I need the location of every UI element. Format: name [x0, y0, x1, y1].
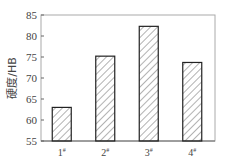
x-category-label: 4#: [188, 147, 196, 158]
y-tick-label: 60: [26, 114, 38, 126]
y-axis-label: 硬度/HB: [5, 57, 19, 99]
y-tick-label: 55: [26, 135, 38, 147]
x-axis: 1#2#3#4#: [58, 147, 197, 158]
bars: [52, 26, 202, 141]
bar-1: [52, 107, 71, 141]
bar-3: [139, 26, 158, 141]
bar-4: [183, 62, 202, 141]
y-tick-label: 80: [26, 30, 38, 42]
y-tick-label: 70: [26, 72, 38, 84]
bar-chart: 55606570758085 1#2#3#4# 硬度/HB: [0, 0, 227, 164]
y-tick-label: 85: [26, 9, 38, 21]
bar-2: [96, 56, 115, 141]
x-category-label: 3#: [145, 147, 153, 158]
y-tick-label: 75: [26, 51, 38, 63]
y-tick-label: 65: [26, 93, 38, 105]
x-category-label: 1#: [58, 147, 66, 158]
x-category-label: 2#: [101, 147, 109, 158]
